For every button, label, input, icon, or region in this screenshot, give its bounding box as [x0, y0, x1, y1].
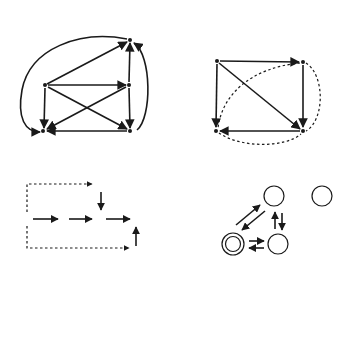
process-r-1	[264, 186, 284, 206]
panel-b-situation	[214, 59, 320, 144]
figure-canvas	[0, 0, 351, 356]
node-s-dot	[41, 129, 45, 133]
node-t-dot	[128, 129, 132, 133]
edge-r-q	[129, 43, 130, 82]
edge-x-y	[220, 61, 299, 62]
panel-c-trunk-templet	[27, 184, 136, 248]
arrow-s-r-1	[236, 205, 260, 225]
edge-x-w	[219, 63, 300, 129]
node-r-dot	[127, 83, 131, 87]
node-x-dot	[215, 59, 219, 63]
dotted-y-w	[306, 63, 320, 131]
edge-r-t	[129, 88, 130, 128]
dotted-v-w	[219, 133, 301, 144]
edge-t-q	[134, 43, 148, 130]
node-p-dot	[43, 83, 47, 87]
edge-x-v	[216, 64, 217, 127]
process-s-1-inner	[226, 237, 241, 252]
node-y-dot	[301, 60, 305, 64]
process-t-1	[268, 234, 288, 254]
panel-d-cooperating-processes	[222, 186, 332, 255]
process-r-2	[312, 186, 332, 206]
node-q-dot	[128, 38, 132, 42]
panel-a-knowledge-base	[21, 37, 148, 133]
dotted-to-x-top	[27, 184, 92, 212]
edge-p-q	[47, 42, 127, 84]
node-v-dot	[214, 129, 218, 133]
arrow-r-s-1	[242, 211, 265, 230]
process-group-1	[222, 186, 288, 255]
node-w-dot	[301, 129, 305, 133]
edge-p-s	[44, 88, 45, 128]
dotted-to-x-bottom	[27, 226, 129, 248]
process-group-2	[312, 186, 332, 206]
